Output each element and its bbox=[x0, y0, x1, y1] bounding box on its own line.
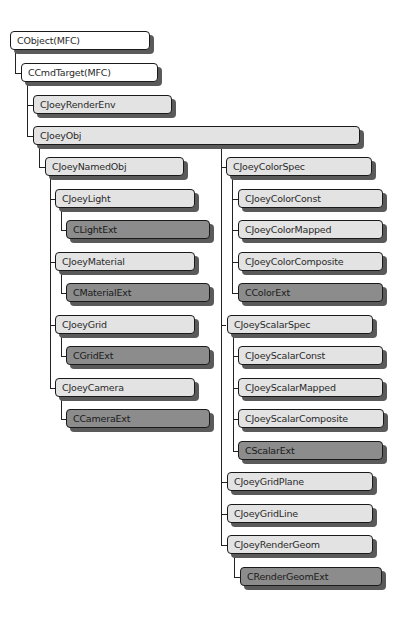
class-node-crendergeomext[interactable]: CRenderGeomExt bbox=[240, 567, 382, 586]
class-node-cjoeycolorcomposite[interactable]: CJoeyColorComposite bbox=[238, 252, 383, 271]
class-node-ccolorext[interactable]: CColorExt bbox=[238, 283, 383, 302]
class-node-ccmdtarget[interactable]: CCmdTarget(MFC) bbox=[21, 63, 158, 82]
class-node-cscalarext[interactable]: CScalarExt bbox=[238, 441, 383, 460]
class-node-ccameraext[interactable]: CCameraExt bbox=[66, 409, 210, 428]
class-node-cjoeycolorspec[interactable]: CJoeyColorSpec bbox=[226, 157, 372, 176]
class-node-cjoeycamera[interactable]: CJoeyCamera bbox=[55, 378, 195, 397]
class-node-cjoeyrenderenv[interactable]: CJoeyRenderEnv bbox=[33, 95, 172, 114]
class-node-cjoeyscalarcomposite[interactable]: CJoeyScalarComposite bbox=[238, 409, 384, 428]
class-node-cjoeyobj[interactable]: CJoeyObj bbox=[33, 126, 360, 145]
connector-line bbox=[61, 397, 62, 420]
class-node-cjoeycolormapped[interactable]: CJoeyColorMapped bbox=[238, 220, 383, 239]
class-node-cjoeycolorconst[interactable]: CJoeyColorConst bbox=[238, 189, 383, 208]
connector-line bbox=[233, 334, 234, 452]
class-node-cobject[interactable]: CObject(MFC) bbox=[10, 31, 150, 50]
connector-line bbox=[15, 50, 16, 74]
connector-line bbox=[50, 176, 51, 389]
class-node-cjoeyscalarspec[interactable]: CJoeyScalarSpec bbox=[227, 315, 373, 334]
class-node-clightext[interactable]: CLightExt bbox=[66, 220, 210, 239]
class-node-cgridext[interactable]: CGridExt bbox=[66, 346, 210, 365]
class-node-cjoeyrendergeom[interactable]: CJoeyRenderGeom bbox=[227, 535, 373, 554]
connector-line bbox=[39, 144, 40, 168]
class-node-cmaterialext[interactable]: CMaterialExt bbox=[66, 283, 210, 302]
class-node-cjoeygrid[interactable]: CJoeyGrid bbox=[55, 315, 195, 334]
connector-line bbox=[61, 334, 62, 357]
connector-line bbox=[221, 325, 226, 326]
class-node-cjoeylight[interactable]: CJoeyLight bbox=[55, 189, 195, 208]
connector-line bbox=[234, 555, 235, 578]
class-node-cjoeynamedobj[interactable]: CJoeyNamedObj bbox=[45, 157, 184, 176]
connector-line bbox=[221, 144, 222, 546]
connector-line bbox=[27, 82, 28, 136]
class-node-cjoeygridline[interactable]: CJoeyGridLine bbox=[227, 504, 373, 523]
class-node-cjoeymaterial[interactable]: CJoeyMaterial bbox=[55, 252, 195, 271]
class-node-cjoeygridplane[interactable]: CJoeyGridPlane bbox=[227, 472, 373, 491]
connector-line bbox=[232, 176, 233, 294]
class-hierarchy-diagram: CObject(MFC) CCmdTarget(MFC) CJoeyRender… bbox=[0, 0, 410, 622]
class-node-cjoeyscalarconst[interactable]: CJoeyScalarConst bbox=[238, 346, 383, 365]
class-node-cjoeyscalarmapped[interactable]: CJoeyScalarMapped bbox=[238, 378, 383, 397]
connector-line bbox=[61, 271, 62, 294]
connector-line bbox=[61, 208, 62, 231]
